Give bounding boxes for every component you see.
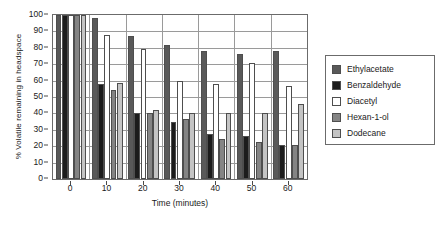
bar bbox=[141, 49, 147, 179]
y-tick-label: 40 bbox=[34, 108, 43, 117]
bar bbox=[117, 83, 123, 179]
y-tick-mark bbox=[44, 161, 48, 162]
legend-item[interactable]: Hexan-1-ol bbox=[332, 109, 430, 125]
y-tick-label: 10 bbox=[34, 157, 43, 166]
legend-item[interactable]: Dodecane bbox=[332, 125, 430, 141]
y-tick-mark bbox=[44, 46, 48, 47]
x-axis-tick-labels: 0102030405060 bbox=[52, 182, 308, 198]
bar bbox=[177, 81, 183, 179]
bar bbox=[189, 113, 195, 179]
bar-group bbox=[53, 15, 89, 179]
x-tick-mark bbox=[252, 181, 253, 185]
x-tick-mark bbox=[70, 181, 71, 185]
x-tick-label: 20 bbox=[138, 184, 147, 193]
bar-group bbox=[234, 15, 270, 179]
legend-item[interactable]: Diacetyl bbox=[332, 93, 430, 109]
bar bbox=[298, 104, 304, 179]
x-tick-label: 10 bbox=[102, 184, 111, 193]
y-tick-mark bbox=[44, 79, 48, 80]
legend-item[interactable]: Benzaldehyde bbox=[332, 77, 430, 93]
y-tick-mark bbox=[44, 96, 48, 97]
y-tick-label: 80 bbox=[34, 43, 43, 52]
x-tick-label: 60 bbox=[283, 184, 292, 193]
x-tick-label: 40 bbox=[211, 184, 220, 193]
legend-label: Hexan-1-ol bbox=[347, 113, 389, 122]
bar bbox=[153, 110, 159, 179]
bar bbox=[68, 15, 74, 179]
bar bbox=[249, 63, 255, 179]
x-tick-mark bbox=[143, 181, 144, 185]
x-tick-mark bbox=[288, 181, 289, 185]
bar bbox=[62, 15, 68, 179]
y-tick-label: 20 bbox=[34, 141, 43, 150]
x-tick-mark bbox=[179, 181, 180, 185]
legend-label: Ethylacetate bbox=[347, 65, 394, 74]
x-tick-label: 30 bbox=[174, 184, 183, 193]
bar bbox=[74, 15, 80, 179]
x-axis-title: Time (minutes) bbox=[52, 198, 308, 208]
bar bbox=[147, 113, 153, 179]
x-tick-label: 0 bbox=[68, 184, 73, 193]
y-tick-mark bbox=[44, 128, 48, 129]
y-tick-label: 0 bbox=[38, 174, 43, 183]
y-tick-mark bbox=[44, 30, 48, 31]
legend-swatch-icon bbox=[332, 97, 341, 106]
legend-item[interactable]: Ethylacetate bbox=[332, 61, 430, 77]
bar bbox=[292, 145, 298, 179]
y-tick-label: 70 bbox=[34, 59, 43, 68]
bar-chart: % Volatile remaining in headspace 010203… bbox=[0, 0, 441, 229]
bar bbox=[56, 15, 62, 179]
y-tick-label: 60 bbox=[34, 75, 43, 84]
bar bbox=[104, 35, 110, 179]
y-tick-mark bbox=[44, 178, 48, 179]
bar bbox=[81, 15, 87, 179]
bar bbox=[92, 18, 98, 179]
y-tick-mark bbox=[44, 145, 48, 146]
bar-group bbox=[198, 15, 234, 179]
legend-swatch-icon bbox=[332, 129, 341, 138]
bar bbox=[237, 54, 243, 179]
bar bbox=[226, 113, 232, 179]
bar bbox=[207, 134, 213, 179]
bar-group bbox=[271, 15, 307, 179]
bar-group bbox=[162, 15, 198, 179]
legend-swatch-icon bbox=[332, 81, 341, 90]
bar-series-container bbox=[53, 15, 307, 179]
legend-swatch-icon bbox=[332, 65, 341, 74]
legend-label: Dodecane bbox=[347, 129, 386, 138]
bar bbox=[134, 113, 140, 179]
y-tick-label: 100 bbox=[29, 10, 43, 19]
bar-group bbox=[89, 15, 125, 179]
bar bbox=[256, 142, 262, 179]
bar bbox=[201, 51, 207, 179]
bar bbox=[262, 113, 268, 179]
legend-label: Benzaldehyde bbox=[347, 81, 401, 90]
y-tick-label: 90 bbox=[34, 26, 43, 35]
chart-legend: EthylacetateBenzaldehydeDiacetylHexan-1-… bbox=[325, 55, 435, 145]
y-tick-mark bbox=[44, 63, 48, 64]
bar bbox=[171, 122, 177, 179]
bar bbox=[243, 136, 249, 179]
y-tick-label: 30 bbox=[34, 125, 43, 134]
bar bbox=[219, 139, 225, 179]
y-tick-label: 50 bbox=[34, 92, 43, 101]
bar bbox=[128, 36, 134, 179]
legend-label: Diacetyl bbox=[347, 97, 377, 106]
x-tick-label: 50 bbox=[247, 184, 256, 193]
bar-group bbox=[126, 15, 162, 179]
bar bbox=[183, 119, 189, 179]
bar bbox=[111, 90, 117, 179]
x-tick-mark bbox=[215, 181, 216, 185]
y-axis-tick-labels: 0102030405060708090100 bbox=[22, 14, 48, 180]
bar bbox=[164, 45, 170, 179]
y-tick-mark bbox=[44, 112, 48, 113]
bar bbox=[98, 84, 104, 179]
bar bbox=[279, 145, 285, 179]
legend-swatch-icon bbox=[332, 113, 341, 122]
bar bbox=[286, 86, 292, 179]
plot-area bbox=[52, 14, 308, 180]
bar bbox=[213, 84, 219, 179]
y-tick-mark bbox=[44, 14, 48, 15]
bar bbox=[273, 51, 279, 179]
x-tick-mark bbox=[106, 181, 107, 185]
